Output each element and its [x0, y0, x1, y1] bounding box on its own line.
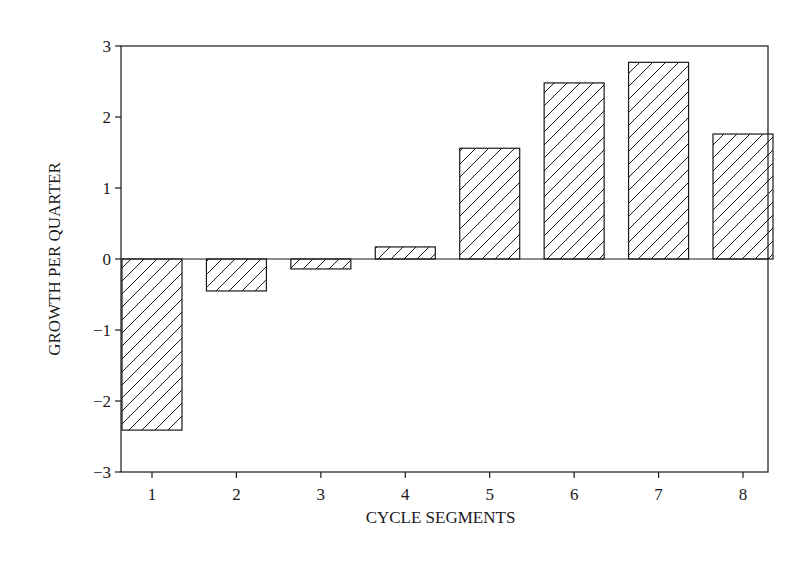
y-axis-title: GROWTH PER QUARTER	[45, 162, 64, 356]
bar-segment-4	[375, 247, 435, 259]
x-tick-label: 2	[232, 485, 241, 504]
y-tick-label: 3	[103, 37, 112, 56]
x-tick-label: 4	[401, 485, 410, 504]
y-tick-label: −2	[93, 392, 111, 411]
bar-segment-5	[460, 148, 520, 259]
x-tick-label: 1	[148, 485, 157, 504]
x-tick-label: 5	[485, 485, 494, 504]
y-tick-label: 1	[103, 179, 112, 198]
y-tick-label: −1	[93, 321, 111, 340]
y-tick-label: 2	[103, 108, 112, 127]
bar-segment-8	[713, 134, 773, 259]
x-tick-label: 8	[739, 485, 748, 504]
x-tick-label: 3	[317, 485, 326, 504]
bar-segment-3	[291, 259, 351, 269]
y-tick-label: −3	[93, 463, 111, 482]
bars-group	[122, 62, 773, 430]
bar-segment-6	[544, 83, 604, 259]
bar-chart: −3−2−10123 12345678 CYCLE SEGMENTS GROWT…	[0, 0, 808, 563]
bar-segment-7	[629, 62, 689, 259]
bar-segment-2	[206, 259, 266, 291]
y-axis-ticks: −3−2−10123	[93, 37, 121, 482]
x-tick-label: 6	[570, 485, 579, 504]
x-tick-label: 7	[654, 485, 663, 504]
x-axis-title: CYCLE SEGMENTS	[366, 508, 516, 527]
x-axis-ticks: 12345678	[148, 472, 748, 504]
bar-segment-1	[122, 259, 182, 430]
y-tick-label: 0	[103, 250, 112, 269]
